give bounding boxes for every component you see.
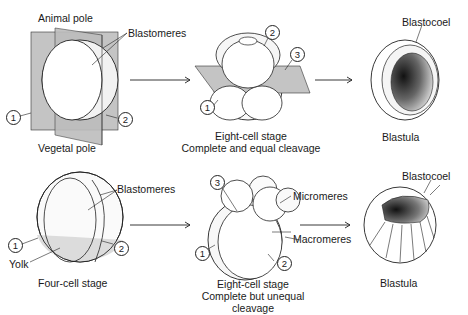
caption-line: Eight-cell stage [202, 278, 305, 290]
caption-line: Eight-cell stage [182, 130, 321, 142]
blastula-equal [371, 40, 439, 120]
plane-number-2: 2 [277, 256, 292, 271]
plane-number-2: 2 [118, 112, 133, 127]
four-cell-caption: Four-cell stage [38, 277, 107, 289]
animal-pole-label: Animal pole [38, 12, 93, 24]
plane-number-3: 3 [290, 47, 305, 62]
four-cell [37, 172, 123, 262]
blastomeres-label-top: Blastomeres [128, 27, 186, 39]
caption-line: Complete but unequal [202, 290, 305, 302]
macromeres-label: Macromeres [293, 233, 351, 245]
plane-number-1: 1 [6, 110, 21, 125]
blastula-caption-top: Blastula [382, 131, 419, 143]
caption-line: cleavage [202, 302, 305, 314]
plane-number-2: 2 [265, 25, 280, 40]
caption-line: Complete and equal cleavage [182, 142, 321, 154]
eight-cell-caption: Eight-cell stage Complete and equal clea… [182, 130, 321, 154]
blastula-caption-bottom: Blastula [380, 277, 417, 289]
blastocoel-label-bottom: Blastocoel [402, 170, 450, 182]
uncleaved-egg [31, 28, 118, 145]
plane-number-3: 3 [210, 175, 225, 190]
plane-number-1: 1 [8, 238, 23, 253]
vegetal-pole-label: Vegetal pole [38, 142, 96, 154]
plane-number-2: 2 [114, 241, 129, 256]
blastocoel-label-top: Blastocoel [402, 16, 450, 28]
blastomeres-label-bottom: Blastomeres [117, 183, 175, 195]
plane-number-1: 1 [200, 100, 215, 115]
eight-cell-unequal-caption: Eight-cell stage Complete but unequal cl… [202, 278, 305, 314]
yolk-label: Yolk [9, 258, 28, 270]
cleavage-diagram [0, 0, 468, 315]
blastula-unequal [364, 187, 436, 263]
plane-number-1: 1 [195, 246, 210, 261]
micromeres-label: Micromeres [293, 190, 348, 202]
